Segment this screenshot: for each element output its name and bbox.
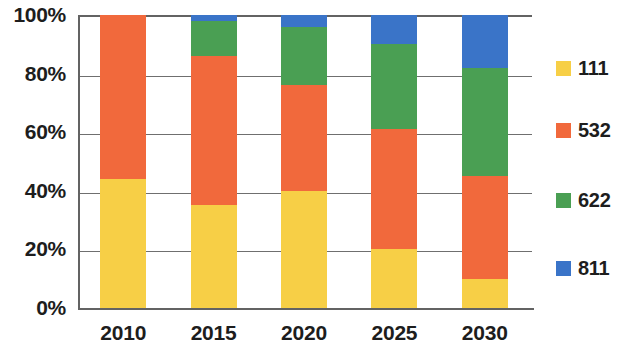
- bar-segment-622[interactable]: [281, 27, 327, 86]
- bar-stack: [371, 15, 417, 308]
- y-tick-label: 20%: [0, 238, 66, 259]
- bar-stack: [191, 15, 237, 308]
- bar-segment-811[interactable]: [191, 15, 237, 21]
- legend-swatch-icon: [556, 261, 571, 276]
- legend-item-111[interactable]: 111: [556, 58, 608, 78]
- x-tick-label-2025: 2025: [346, 320, 442, 345]
- x-tick-label-2010: 2010: [75, 320, 171, 345]
- legend-label: 622: [578, 190, 610, 210]
- x-tick-label-2020: 2020: [256, 320, 352, 345]
- legend-item-811[interactable]: 811: [556, 258, 609, 278]
- y-tick-label: 100%: [0, 4, 66, 25]
- bar-segment-811[interactable]: [281, 15, 327, 27]
- x-tick-label-2030: 2030: [437, 320, 533, 345]
- bar-group-2015[interactable]: [191, 15, 237, 308]
- bar-group-2020[interactable]: [281, 15, 327, 308]
- bar-segment-111[interactable]: [371, 249, 417, 308]
- stacked-bar-chart: 0%20%40%60%80%100% 20102015202020252030 …: [0, 0, 620, 354]
- x-axis-line: [78, 308, 534, 310]
- bar-group-2025[interactable]: [371, 15, 417, 308]
- bar-segment-111[interactable]: [281, 191, 327, 308]
- bar-segment-622[interactable]: [462, 68, 508, 176]
- legend-item-622[interactable]: 622: [556, 190, 610, 210]
- y-tick-label: 0%: [0, 297, 66, 318]
- bar-segment-532[interactable]: [462, 176, 508, 279]
- bar-stack: [462, 15, 508, 308]
- legend-swatch-icon: [556, 123, 571, 138]
- bar-group-2010[interactable]: [100, 15, 146, 308]
- y-tick-label: 60%: [0, 121, 66, 142]
- bar-segment-811[interactable]: [371, 15, 417, 44]
- bar-segment-532[interactable]: [281, 85, 327, 190]
- bar-stack: [100, 15, 146, 308]
- bars-layer: [78, 15, 530, 308]
- legend-label: 532: [578, 120, 610, 140]
- bar-segment-111[interactable]: [100, 179, 146, 308]
- legend-swatch-icon: [556, 193, 571, 208]
- y-axis: 0%20%40%60%80%100%: [0, 0, 72, 354]
- legend-label: 811: [578, 258, 609, 278]
- legend-swatch-icon: [556, 61, 571, 76]
- legend-label: 111: [578, 58, 608, 78]
- y-tick-label: 40%: [0, 180, 66, 201]
- chart-legend: 111532622811: [556, 0, 620, 310]
- bar-segment-622[interactable]: [371, 44, 417, 129]
- legend-item-532[interactable]: 532: [556, 120, 610, 140]
- bar-segment-532[interactable]: [371, 129, 417, 249]
- x-tick-label-2015: 2015: [166, 320, 262, 345]
- bar-segment-111[interactable]: [191, 205, 237, 308]
- bar-stack: [281, 15, 327, 308]
- bar-segment-532[interactable]: [191, 56, 237, 205]
- bar-segment-111[interactable]: [462, 279, 508, 308]
- bar-segment-622[interactable]: [191, 21, 237, 56]
- y-tick-label: 80%: [0, 63, 66, 84]
- bar-segment-811[interactable]: [462, 15, 508, 68]
- bar-segment-532[interactable]: [100, 15, 146, 179]
- x-axis: 20102015202020252030: [78, 318, 530, 352]
- bar-group-2030[interactable]: [462, 15, 508, 308]
